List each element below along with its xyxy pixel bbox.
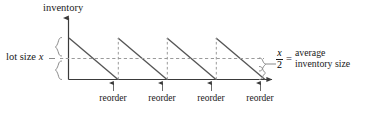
reorder-label-3: reorder — [189, 93, 233, 103]
half-x-fraction: x 2 — [276, 48, 283, 70]
depletion-ramp-1 — [69, 38, 118, 80]
y-axis-label: inventory — [43, 2, 83, 13]
depletion-ramp-3 — [167, 38, 216, 80]
inventory-sawtooth-figure: inventory lot size x reorder reorder reo… — [0, 0, 378, 113]
average-inventory-line-2: inventory size — [295, 59, 350, 70]
reorder-label-1: reorder — [91, 93, 135, 103]
reorder-label-4: reorder — [238, 93, 282, 103]
average-inventory-annotation: x 2 = average inventory size — [276, 48, 350, 70]
lot-size-variable: x — [39, 51, 44, 62]
lot-size-label: lot size x — [6, 51, 43, 62]
average-inventory-text: average inventory size — [295, 48, 350, 70]
fraction-denominator: 2 — [276, 60, 283, 71]
axes-group — [69, 18, 273, 80]
reorder-label-2: reorder — [140, 93, 184, 103]
lot-size-text: lot size — [6, 51, 36, 62]
reorder-arrow-group — [114, 83, 261, 91]
fraction-numerator: x — [276, 48, 282, 59]
equals-sign: = — [286, 53, 292, 65]
